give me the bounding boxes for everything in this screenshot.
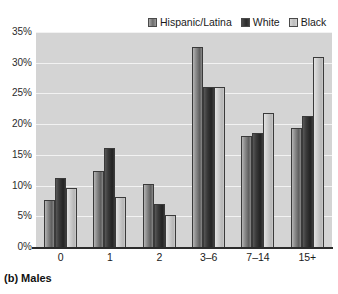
bar-white-3-6 xyxy=(203,87,214,247)
legend-label-white: White xyxy=(253,17,280,28)
legend-entry-white: White xyxy=(241,17,280,28)
bar-black-7-14 xyxy=(263,113,274,247)
bar-group-0 xyxy=(36,32,85,247)
bar-hispanic-latina-0 xyxy=(44,200,55,247)
legend-swatch-white xyxy=(241,18,250,27)
legend-swatch-hispanic-latina xyxy=(148,18,157,27)
y-axis-tick-20: 20% xyxy=(0,119,32,129)
bar-white-7-14 xyxy=(252,133,263,247)
bar-black-15 xyxy=(313,57,324,247)
bar-white-2 xyxy=(154,204,165,247)
bar-black-1 xyxy=(115,197,126,247)
y-axis-tick-30: 30% xyxy=(0,58,32,68)
bar-chart-figure: Hispanic/Latina White Black 35% 30% 25% … xyxy=(0,0,338,294)
bar-black-3-6 xyxy=(214,87,225,247)
bar-group-3-6 xyxy=(184,32,233,247)
y-axis-tick-5: 5% xyxy=(0,211,32,221)
bar-series-container xyxy=(36,32,332,247)
bar-hispanic-latina-15 xyxy=(291,128,302,247)
legend-entry-hispanic-latina: Hispanic/Latina xyxy=(148,17,232,28)
bar-white-15 xyxy=(302,116,313,247)
bar-hispanic-latina-3-6 xyxy=(192,47,203,247)
bar-group-15 xyxy=(283,32,332,247)
y-axis-tick-35: 35% xyxy=(0,27,32,37)
chart-legend: Hispanic/Latina White Black xyxy=(148,15,326,29)
y-axis-tick-labels: 35% 30% 25% 20% 15% 10% 5% 0% xyxy=(0,32,32,247)
bar-white-1 xyxy=(104,148,115,247)
x-axis-tick-1: 1 xyxy=(85,251,134,265)
plot-area-wrapper xyxy=(36,32,332,247)
legend-label-black: Black xyxy=(301,17,327,28)
bar-group-1 xyxy=(85,32,134,247)
bar-hispanic-latina-7-14 xyxy=(241,136,252,247)
y-axis-tick-15: 15% xyxy=(0,150,32,160)
bar-hispanic-latina-1 xyxy=(93,171,104,247)
x-axis-tick-0: 0 xyxy=(36,251,85,265)
x-axis-tick-15plus: 15+ xyxy=(283,251,332,265)
legend-label-hispanic-latina: Hispanic/Latina xyxy=(160,17,232,28)
bar-hispanic-latina-2 xyxy=(143,184,154,247)
bar-group-7-14 xyxy=(233,32,282,247)
x-axis-tick-7-14: 7–14 xyxy=(233,251,282,265)
bar-black-0 xyxy=(66,188,77,247)
y-axis-tick-10: 10% xyxy=(0,181,32,191)
x-axis-tick-labels: 0 1 2 3–6 7–14 15+ xyxy=(36,251,332,265)
x-axis-line xyxy=(32,247,333,249)
x-axis-tick-2: 2 xyxy=(135,251,184,265)
legend-entry-black: Black xyxy=(289,17,327,28)
figure-caption: (b) Males xyxy=(4,272,52,285)
bar-white-0 xyxy=(55,178,66,247)
x-axis-tick-3-6: 3–6 xyxy=(184,251,233,265)
bar-group-2 xyxy=(135,32,184,247)
y-axis-tick-25: 25% xyxy=(0,88,32,98)
y-axis-tick-0: 0% xyxy=(0,242,32,252)
legend-swatch-black xyxy=(289,18,298,27)
bar-black-2 xyxy=(165,215,176,247)
